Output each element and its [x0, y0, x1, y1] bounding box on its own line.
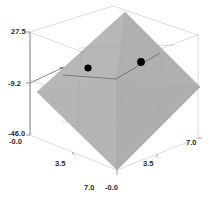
- y-tick-label-origin: -0.0: [9, 137, 22, 146]
- surface-plot-figure: 27.5 -9.2 -46.0 -0.0 3.5 3.5 7.0 -0.0 7.…: [0, 0, 212, 203]
- y-tick-label-max: 7.0: [186, 138, 196, 147]
- y-tick-label-mid: 3.5: [143, 159, 153, 168]
- data-point-1[interactable]: [84, 64, 91, 71]
- z-tick-label-mid: -9.2: [8, 79, 21, 88]
- x-tick-label-mid: 3.5: [55, 159, 65, 168]
- x-tick-label-max: 7.0: [84, 183, 94, 192]
- y-tick-label-min: -0.0: [105, 183, 118, 192]
- surface-facet-upper-right: [117, 12, 200, 87]
- data-point-2[interactable]: [137, 58, 145, 66]
- surface-mesh: [37, 12, 200, 170]
- plot-canvas: [0, 0, 212, 203]
- z-tick-label-top: 27.5: [11, 27, 26, 36]
